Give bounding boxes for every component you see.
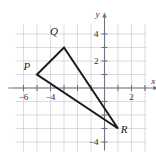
- x-axis-arrow: [153, 86, 156, 91]
- x-tick-label: −6: [19, 92, 29, 102]
- y-tick-label: 2: [94, 56, 99, 66]
- y-axis-label: y: [95, 9, 100, 19]
- x-tick-label: −4: [46, 92, 56, 102]
- y-tick-label: −4: [89, 137, 99, 147]
- y-axis-arrow: [102, 13, 107, 18]
- x-axis-label: x: [150, 76, 155, 86]
- coordinate-plane-figure: −6−4242−4xyPQR: [0, 0, 156, 165]
- graph-labels: −6−4242−4xyPQR: [19, 9, 156, 148]
- axes: [8, 13, 156, 151]
- vertex-label-q: Q: [50, 25, 58, 37]
- vertex-label-p: P: [23, 60, 31, 72]
- graph-canvas: −6−4242−4xyPQR: [0, 0, 156, 165]
- vertex-label-r: R: [120, 123, 128, 135]
- y-tick-label: 4: [94, 29, 99, 39]
- x-tick-label: 2: [129, 92, 134, 102]
